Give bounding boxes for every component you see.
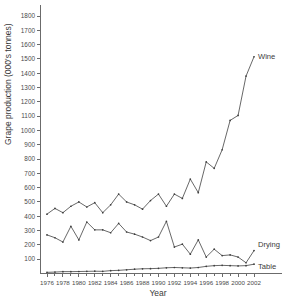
- data-point: [110, 270, 112, 272]
- data-point: [189, 267, 191, 269]
- y-tick-label: 800: [24, 155, 35, 162]
- series-layer: [46, 56, 255, 273]
- axis-frame: [41, 5, 283, 274]
- x-tick-label: 1980: [72, 279, 86, 286]
- data-point: [94, 229, 96, 231]
- data-point: [221, 149, 223, 151]
- x-tick-label: 2000: [231, 279, 245, 286]
- series-labels: WineDryingTable: [258, 52, 280, 270]
- x-axis-title: Year: [149, 288, 166, 298]
- data-point: [189, 178, 191, 180]
- data-point: [102, 212, 104, 214]
- data-point: [205, 161, 207, 163]
- data-point: [110, 232, 112, 234]
- data-point: [213, 265, 215, 267]
- y-tick-label: 1500: [21, 55, 36, 62]
- x-tick-label: 1976: [40, 279, 54, 286]
- data-point: [253, 250, 255, 252]
- x-tick-label: 1984: [104, 279, 118, 286]
- data-point: [126, 201, 128, 203]
- data-point: [166, 220, 168, 222]
- data-point: [46, 234, 48, 236]
- data-point: [253, 56, 255, 58]
- data-point: [237, 265, 239, 267]
- x-axis-ticks: 1976197819801982198419861988199019921994…: [40, 274, 261, 286]
- data-point: [94, 202, 96, 204]
- data-point: [134, 268, 136, 270]
- data-point: [213, 168, 215, 170]
- data-point: [126, 269, 128, 271]
- data-point: [182, 243, 184, 245]
- data-point: [142, 208, 144, 210]
- data-point: [229, 254, 231, 256]
- x-tick-label: 1994: [183, 279, 197, 286]
- y-tick-label: 900: [24, 141, 35, 148]
- data-point: [54, 237, 56, 239]
- data-point: [213, 248, 215, 250]
- data-point: [54, 208, 56, 210]
- x-tick-label: 1998: [215, 279, 229, 286]
- data-point: [205, 266, 207, 268]
- data-point: [142, 236, 144, 238]
- y-tick-label: 100: [24, 255, 35, 262]
- data-point: [134, 233, 136, 235]
- data-point: [166, 267, 168, 269]
- data-point: [182, 267, 184, 269]
- x-tick-label: 1996: [199, 279, 213, 286]
- data-point: [86, 271, 88, 273]
- y-axis-title-text: Grape production (000's tonnes): [3, 23, 13, 145]
- data-point: [229, 120, 231, 122]
- data-point: [86, 221, 88, 223]
- data-point: [205, 256, 207, 258]
- y-tick-label: 500: [24, 198, 35, 205]
- data-point: [150, 268, 152, 270]
- data-point: [46, 272, 48, 274]
- x-tick-label: 1992: [168, 279, 182, 286]
- data-point: [229, 265, 231, 267]
- y-tick-label: 400: [24, 213, 35, 220]
- data-point: [253, 263, 255, 265]
- data-point: [70, 271, 72, 273]
- data-point: [245, 262, 247, 264]
- series-label-table: Table: [258, 262, 276, 271]
- data-point: [197, 192, 199, 194]
- y-tick-label: 1100: [21, 112, 35, 119]
- data-point: [182, 198, 184, 200]
- y-tick-label: 200: [24, 241, 35, 248]
- data-point: [62, 212, 64, 214]
- chart-canvas: Grape production (000's tonnes) Year 100…: [0, 0, 287, 301]
- data-point: [118, 270, 120, 272]
- data-point: [46, 213, 48, 215]
- data-point: [158, 193, 160, 195]
- data-point: [245, 75, 247, 77]
- x-tick-label: 2002: [247, 279, 261, 286]
- y-axis-ticks: 1002003004005006007008009001000110012001…: [21, 12, 41, 262]
- data-point: [245, 265, 247, 267]
- data-point: [197, 239, 199, 241]
- data-point: [102, 271, 104, 273]
- data-point: [70, 205, 72, 207]
- series-label-wine: Wine: [258, 52, 275, 61]
- x-tick-label: 1986: [120, 279, 134, 286]
- y-tick-label: 1000: [21, 127, 36, 134]
- data-point: [78, 239, 80, 241]
- y-tick-label: 1600: [21, 41, 36, 48]
- series-line-drying: [47, 221, 254, 262]
- x-tick-label: 1978: [56, 279, 70, 286]
- x-tick-label: 1982: [88, 279, 102, 286]
- data-point: [150, 200, 152, 202]
- grape-production-line-chart: Grape production (000's tonnes) Year 100…: [0, 0, 287, 301]
- data-point: [102, 229, 104, 231]
- data-point: [134, 204, 136, 206]
- data-point: [62, 241, 64, 243]
- data-point: [150, 240, 152, 242]
- data-point: [70, 225, 72, 227]
- data-point: [174, 193, 176, 195]
- y-axis-title: Grape production (000's tonnes): [3, 23, 13, 145]
- data-point: [237, 256, 239, 258]
- x-tick-label: 1988: [136, 279, 150, 286]
- y-tick-label: 1200: [21, 98, 36, 105]
- data-point: [86, 206, 88, 208]
- data-point: [126, 231, 128, 233]
- y-tick-label: 600: [24, 184, 35, 191]
